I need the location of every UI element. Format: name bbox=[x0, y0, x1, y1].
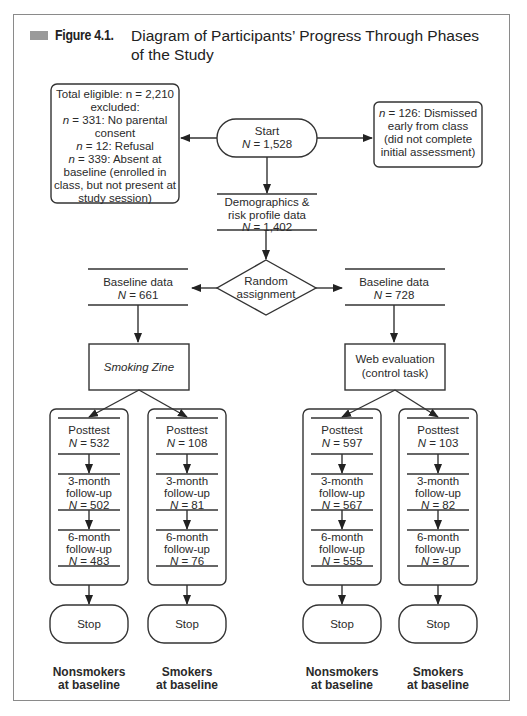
demographics-text: risk profile data bbox=[228, 209, 307, 221]
excluded-text: n = 339: Absent at bbox=[68, 153, 162, 165]
stop-text: Stop bbox=[426, 618, 450, 630]
m6-text: 6-month bbox=[321, 531, 363, 543]
m3-text: 3-month bbox=[166, 475, 208, 487]
m6-text: follow-up bbox=[415, 543, 461, 555]
posttest-text: Posttest bbox=[321, 424, 363, 436]
posttest-text: Posttest bbox=[166, 424, 208, 436]
m3-text: follow-up bbox=[319, 487, 365, 499]
stop-text: Stop bbox=[175, 618, 199, 630]
group-footer-label: Nonsmokers bbox=[306, 665, 379, 679]
arrow-to-group-1 bbox=[89, 390, 139, 417]
posttest-text: Posttest bbox=[68, 424, 110, 436]
m3-text: N = 502 bbox=[69, 499, 110, 511]
group-footer-label: Nonsmokers bbox=[53, 665, 126, 679]
excluded-text: consent bbox=[95, 127, 136, 139]
baseline-right-text: Baseline data bbox=[359, 276, 429, 288]
m3-text: follow-up bbox=[164, 487, 210, 499]
m3-text: N = 567 bbox=[322, 499, 363, 511]
baseline-left-text: Baseline data bbox=[103, 276, 173, 288]
dismissed-text: n = 126: Dismissed bbox=[379, 107, 477, 119]
posttest-text: N = 597 bbox=[322, 437, 363, 449]
demographics-text: Demographics & bbox=[224, 196, 309, 208]
excluded-text: n = 12: Refusal bbox=[76, 140, 154, 152]
posttest-text: Posttest bbox=[417, 424, 459, 436]
start-text: N = 1,528 bbox=[242, 138, 292, 150]
intervention-text: Smoking Zine bbox=[104, 361, 174, 373]
m3-text: N = 81 bbox=[170, 499, 204, 511]
m6-text: 6-month bbox=[166, 531, 208, 543]
stop-text: Stop bbox=[330, 618, 354, 630]
group-footer-label: at baseline bbox=[311, 678, 373, 692]
m6-text: 6-month bbox=[68, 531, 110, 543]
m6-text: N = 76 bbox=[170, 555, 204, 567]
group-footer-label: at baseline bbox=[407, 678, 469, 692]
m6-text: follow-up bbox=[66, 543, 112, 555]
group-footer-label: at baseline bbox=[58, 678, 120, 692]
excluded-text: excluded: bbox=[90, 101, 139, 113]
excluded-text: class, but not present at bbox=[54, 179, 177, 191]
posttest-text: N = 108 bbox=[167, 437, 208, 449]
m6-text: follow-up bbox=[164, 543, 210, 555]
dismissed-text: initial assessment) bbox=[381, 146, 476, 158]
m6-text: 6-month bbox=[417, 531, 459, 543]
m3-text: 3-month bbox=[417, 475, 459, 487]
flow-diagram: Total eligible: n = 2,210excluded:n = 33… bbox=[0, 0, 527, 716]
excluded-text: Total eligible: n = 2,210 bbox=[56, 88, 174, 100]
m3-text: follow-up bbox=[66, 487, 112, 499]
arrow-to-group-3 bbox=[342, 390, 395, 417]
posttest-text: N = 103 bbox=[418, 437, 459, 449]
dismissed-text: (did not complete bbox=[384, 133, 472, 145]
random-text: assignment bbox=[237, 288, 297, 300]
m3-text: 3-month bbox=[321, 475, 363, 487]
arrow-to-group-4 bbox=[395, 390, 438, 417]
group-footer-label: at baseline bbox=[156, 678, 218, 692]
m3-text: follow-up bbox=[415, 487, 461, 499]
random-text: Random bbox=[244, 275, 287, 287]
m6-text: N = 555 bbox=[322, 555, 363, 567]
group-footer-label: Smokers bbox=[162, 665, 213, 679]
excluded-text: study session) bbox=[78, 192, 152, 204]
m6-text: follow-up bbox=[319, 543, 365, 555]
posttest-text: N = 532 bbox=[69, 437, 110, 449]
start-text: Start bbox=[255, 125, 280, 137]
stop-text: Stop bbox=[77, 618, 101, 630]
arrow-to-group-2 bbox=[139, 390, 187, 417]
group-footer-label: Smokers bbox=[413, 665, 464, 679]
baseline-right-text: N = 728 bbox=[374, 289, 415, 301]
m3-text: 3-month bbox=[68, 475, 110, 487]
control-text: (control task) bbox=[362, 367, 429, 379]
excluded-text: n = 331: No parental bbox=[63, 114, 168, 126]
m3-text: N = 82 bbox=[421, 499, 455, 511]
m6-text: N = 483 bbox=[69, 555, 110, 567]
m6-text: N = 87 bbox=[421, 555, 455, 567]
baseline-left-text: N = 661 bbox=[118, 289, 159, 301]
control-text: Web evaluation bbox=[355, 353, 434, 365]
demographics-text: N = 1,402 bbox=[242, 221, 292, 233]
excluded-text: baseline (enrolled in bbox=[64, 166, 167, 178]
dismissed-text: early from class bbox=[388, 120, 469, 132]
